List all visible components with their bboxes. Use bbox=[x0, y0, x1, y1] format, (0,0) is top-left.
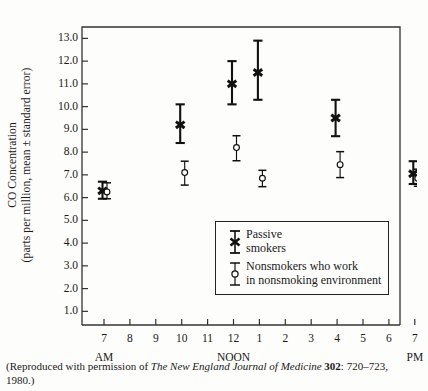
legend-symbol-passive-smokers bbox=[226, 228, 244, 256]
legend-label-nonsmokers: Nonsmokers who work in nonsmoking enviro… bbox=[244, 260, 381, 287]
datapoint-nonsmoker-1-PM bbox=[258, 170, 266, 186]
datapoint-passive-4-PM bbox=[331, 100, 340, 136]
figure-caption: (Reproduced with permission of The New E… bbox=[6, 360, 411, 387]
legend-label-passive-smokers: Passive smokers bbox=[244, 228, 286, 255]
caption-volume: 302 bbox=[324, 360, 341, 372]
datapoint-nonsmoker-7-AM bbox=[103, 183, 111, 199]
legend-symbol-nonsmokers bbox=[226, 260, 244, 288]
legend-nonsmokers-line1: Nonsmokers who work bbox=[246, 259, 358, 273]
caption-journal: The New England Journal of Medicine bbox=[151, 360, 322, 372]
datapoint-nonsmoker-12-NOON bbox=[233, 136, 241, 161]
datapoint-passive-1-PM bbox=[253, 41, 262, 100]
legend-nonsmokers-line2: in nonsmoking environment bbox=[246, 273, 381, 287]
legend-passive-line2: smokers bbox=[246, 241, 286, 255]
datapoint-passive-10-AM bbox=[176, 104, 185, 143]
datapoint-nonsmoker-4-PM bbox=[336, 152, 344, 178]
caption-pre: (Reproduced with permission of bbox=[6, 360, 151, 372]
legend-passive-line1: Passive bbox=[246, 227, 282, 241]
datapoint-nonsmoker-10-AM bbox=[181, 161, 189, 185]
datapoint-passive-12-NOON bbox=[227, 61, 236, 104]
chart-legend: Passive smokers Nonsmokers who work in n… bbox=[215, 221, 389, 295]
